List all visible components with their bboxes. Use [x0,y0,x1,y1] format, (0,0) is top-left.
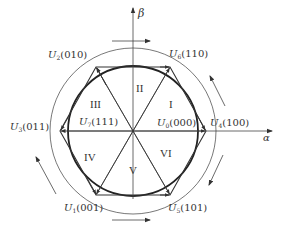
label-u6: U6(110) [169,49,208,60]
label-u7: U7(111) [79,117,118,128]
sector-1-label: I [169,99,173,110]
label-u5: U5(101) [168,203,207,214]
label-u2: U2(010) [48,50,87,61]
label-u0: U0(000) [157,118,196,129]
vector-u1-arrow [97,131,134,194]
sector-6-label: VI [160,148,172,159]
svpwm-diagram: β α U4(100) U6(110) U2(010) U3(011) U1(0… [0,0,286,234]
beta-axis-label: β [138,8,144,19]
label-u1: U1(001) [64,203,103,214]
rotation-arrow-upper-right [210,76,225,106]
sector-3-label: III [90,99,101,110]
sector-2-label: II [136,83,143,94]
sector-4-label: IV [84,152,96,163]
sector-5-label: V [129,165,137,176]
vector-u5-arrow [133,131,170,194]
label-u4: U4(100) [210,118,249,129]
alpha-axis-label: α [263,133,270,143]
label-u3: U3(011) [10,122,49,133]
rotation-arrow-left [36,157,56,194]
